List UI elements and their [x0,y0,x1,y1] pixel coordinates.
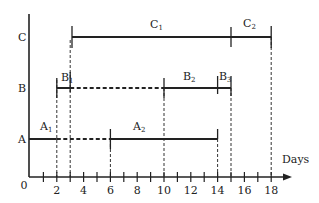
row-c [72,26,271,48]
row-label-c: C [18,31,26,44]
x-axis-tick-labels: 0 2 4 6 8 10 12 14 16 18 [21,179,279,197]
label-b3: B3 [219,70,232,84]
label-b1: B1 [61,71,74,85]
tick-label-8: 8 [134,184,141,197]
tick-label-16: 16 [237,184,251,197]
guide-lines [57,37,271,177]
tick-label-18: 18 [264,184,278,197]
timeline-diagram: 0 2 4 6 8 10 12 14 16 18 Days C B A A1 A… [0,0,319,203]
tick-label-6: 6 [107,184,114,197]
x-axis-label: Days [282,153,310,166]
label-c1: C1 [150,18,163,32]
row-b [57,72,231,98]
tick-label-14: 14 [211,184,225,197]
tick-label-4: 4 [80,184,87,197]
tick-label-12: 12 [184,184,198,197]
row-label-b: B [18,82,26,95]
row-label-a: A [17,133,27,146]
tick-label-10: 10 [157,184,171,197]
label-c2: C2 [243,17,256,31]
tick-label-2: 2 [53,184,60,197]
label-a2: A2 [132,120,145,134]
label-a1: A1 [39,120,52,134]
origin-label: 0 [21,179,28,192]
x-axis-arrow-icon [283,174,292,181]
label-b2: B2 [183,70,196,84]
